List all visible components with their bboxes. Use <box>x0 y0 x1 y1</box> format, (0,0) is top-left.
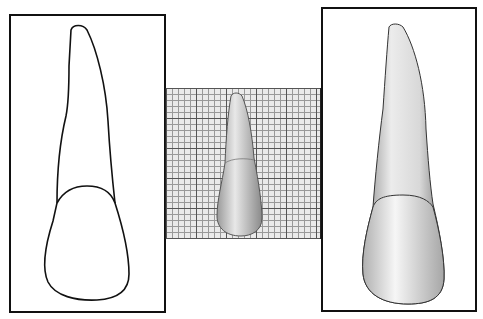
outline-drawing-panel <box>9 14 166 313</box>
tooth-outline-icon <box>11 16 168 315</box>
tooth-photo-panel <box>321 7 477 312</box>
tooth-photo-large-icon <box>323 9 479 314</box>
grid-photo-panel <box>165 88 321 239</box>
tooth-photo-small-icon <box>166 88 322 239</box>
